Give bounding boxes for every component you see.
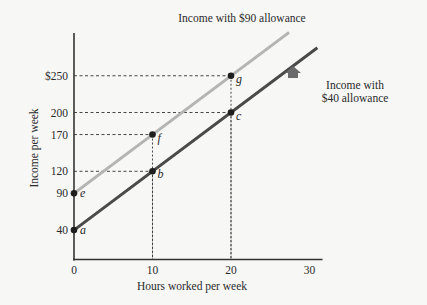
y-tick-label: 90 <box>57 187 69 199</box>
point-a <box>71 227 78 234</box>
income-lines <box>74 32 317 230</box>
dashed-guides <box>74 76 231 260</box>
point-label-e: e <box>80 186 86 200</box>
x-tick-label: 10 <box>147 264 159 276</box>
point-f <box>149 131 156 138</box>
point-g <box>228 72 235 79</box>
point-b <box>149 168 156 175</box>
label-90-allowance: Income with $90 allowance <box>178 12 305 24</box>
point-label-g: g <box>236 72 242 86</box>
point-e <box>71 190 78 197</box>
y-tick-label: 120 <box>51 165 69 177</box>
income-chart: 4090120170200$2500102030Hours worked per… <box>0 0 427 305</box>
label-40-allowance-line2: $40 allowance <box>322 92 389 104</box>
point-label-c: c <box>236 109 242 123</box>
point-c <box>228 109 235 116</box>
chart-canvas: 4090120170200$2500102030Hours worked per… <box>0 0 427 305</box>
point-label-a: a <box>80 223 86 237</box>
income-line-40-allowance <box>74 48 317 230</box>
point-label-b: b <box>158 167 164 181</box>
y-tick-label: $250 <box>45 70 68 82</box>
point-label-f: f <box>158 131 163 145</box>
axes: 4090120170200$2500102030Hours worked per… <box>28 33 323 293</box>
x-tick-label: 20 <box>225 264 237 276</box>
x-tick-label: 0 <box>71 264 77 276</box>
x-axis-title: Hours worked per week <box>137 280 247 293</box>
x-tick-label: 30 <box>304 264 316 276</box>
y-tick-label: 40 <box>57 224 69 236</box>
label-40-allowance-line1: Income with <box>326 79 384 91</box>
income-line-90-allowance <box>74 32 289 193</box>
y-tick-label: 200 <box>51 107 69 119</box>
shift-up-arrow-icon <box>285 66 301 78</box>
y-tick-label: 170 <box>51 129 69 141</box>
y-axis-title: Income per week <box>28 108 41 187</box>
